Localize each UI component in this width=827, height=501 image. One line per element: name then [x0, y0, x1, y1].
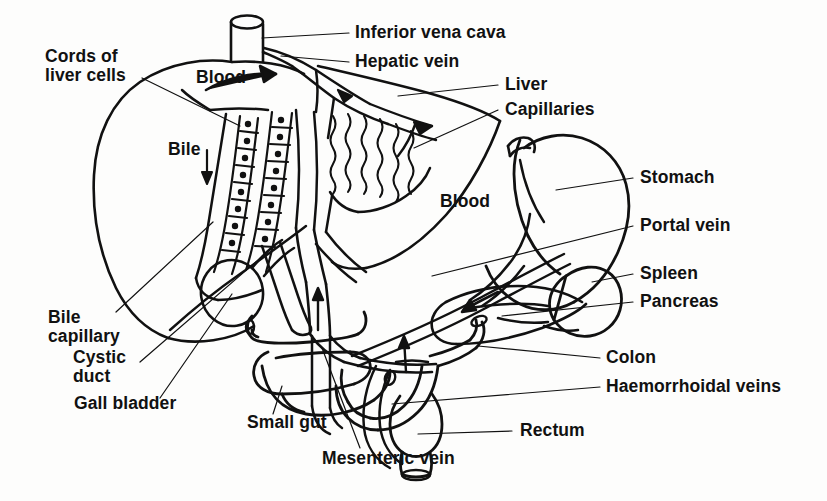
label-cords-line2: liver cells — [45, 65, 126, 85]
label-small-gut: Small gut — [247, 413, 327, 433]
leader-stomach — [556, 178, 633, 190]
label-bile-capillary-line1: Bile — [48, 307, 81, 327]
label-blood-right: Blood — [440, 192, 490, 212]
label-colon: Colon — [606, 348, 656, 368]
label-cords-line1: Cords of — [45, 46, 118, 66]
label-bile-capillary: Bilecapillary — [48, 308, 120, 347]
inferior-mesenteric-connector — [396, 361, 428, 363]
label-bile-capillary-line2: capillary — [48, 326, 120, 346]
label-hepatic-vein: Hepatic vein — [355, 52, 459, 72]
label-gall-bladder: Gall bladder — [74, 394, 176, 414]
label-stomach: Stomach — [640, 168, 715, 188]
label-cystic-duct-line2: duct — [73, 366, 110, 386]
spleen — [550, 267, 622, 336]
leader-colon — [478, 346, 600, 358]
label-spleen: Spleen — [640, 264, 698, 284]
label-blood-left: Blood — [196, 68, 246, 88]
label-portal-vein: Portal vein — [640, 216, 731, 236]
leader-gall-bladder — [160, 294, 232, 398]
capillaries-sinusoids — [331, 114, 414, 202]
haemorrhoidal-flow-arrow — [399, 336, 409, 372]
cords-of-liver-cells — [214, 112, 292, 274]
leader-lines — [116, 33, 633, 448]
leader-rectum — [418, 431, 512, 434]
leader-inferior-vena-cava — [262, 33, 349, 38]
label-haemorrhoidal-veins: Haemorrhoidal veins — [606, 377, 781, 397]
leader-cystic-duct — [140, 248, 272, 362]
leader-haemorrhoidal-veins — [392, 387, 600, 404]
inferior-vena-cava — [231, 16, 292, 67]
leader-liver — [398, 85, 498, 96]
label-mesenteric-vein: Mesenteric vein — [322, 449, 455, 469]
label-pancreas: Pancreas — [640, 292, 719, 312]
label-cords-of-liver-cells: Cords ofliver cells — [45, 47, 126, 86]
leader-hepatic-vein — [281, 56, 349, 62]
blood-arrow-right — [462, 292, 498, 312]
label-cystic-duct: Cysticduct — [73, 348, 126, 387]
label-inferior-vena-cava: Inferior vena cava — [355, 23, 506, 43]
colon — [336, 320, 484, 430]
label-rectum: Rectum — [520, 421, 585, 441]
leader-small-gut — [273, 386, 282, 414]
portal-trunk-in-liver — [296, 228, 330, 336]
stomach-inner-curve — [520, 160, 544, 222]
label-capillaries: Capillaries — [505, 100, 595, 120]
label-bile: Bile — [168, 140, 201, 160]
anatomical-diagram-hepatic-portal-system: Inferior vena cava Hepatic vein Liver Ca… — [0, 0, 827, 501]
portal-venule-interlobular — [182, 90, 317, 230]
bile-flow-arrow-head — [202, 172, 212, 184]
tributary-arrowhead — [414, 122, 432, 134]
label-liver: Liver — [505, 75, 547, 95]
label-cystic-duct-line1: Cystic — [73, 347, 126, 367]
portal-vein-flow-arrow — [313, 288, 323, 330]
